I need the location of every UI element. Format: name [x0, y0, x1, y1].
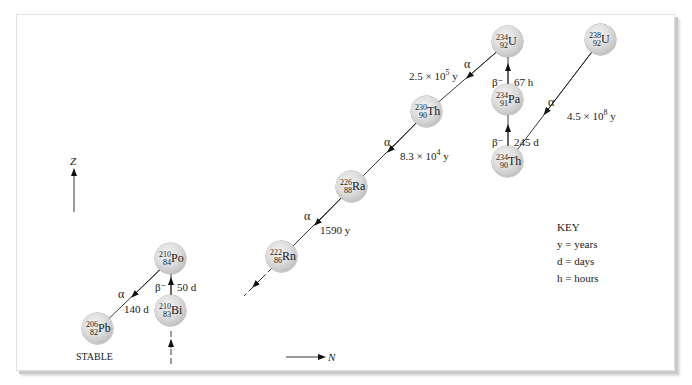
half-life-label: 67 h [514, 76, 533, 88]
half-life-label: 2.5 × 105 y [409, 70, 458, 82]
nuclide-th230: 23090Th [411, 96, 442, 127]
nuclide-po210: 21084Po [155, 243, 186, 274]
half-life-unit: y [607, 110, 615, 122]
half-life-base: 2.5 × 10 [409, 70, 445, 82]
half-life-label: 140 d [124, 303, 149, 315]
element-symbol: Rn [282, 250, 296, 262]
nuclide-pb206: 20682Pb [82, 313, 113, 344]
key-title: KEY [557, 219, 599, 236]
atomic-number: 90 [419, 112, 427, 120]
nuclide-bi210: 21083Bi [155, 295, 186, 326]
decay-type-label: α [464, 58, 470, 70]
atomic-number: 88 [344, 187, 352, 195]
element-symbol: Pa [508, 93, 520, 105]
decay-type-label: β⁻ [492, 76, 503, 88]
decay-type-label: α [548, 96, 554, 108]
half-life-label: 4.5 × 108 y [567, 110, 616, 122]
element-symbol: Th [508, 155, 521, 167]
half-life-label: 1590 y [320, 224, 350, 236]
stable-label: STABLE [76, 351, 113, 363]
decay-type-label: α [304, 210, 310, 222]
element-symbol: Th [427, 105, 440, 117]
atomic-number: 83 [163, 311, 171, 319]
element-symbol: U [601, 33, 610, 45]
nuclide-th234: 23490Th [492, 146, 523, 177]
key-item-years: y = years [557, 236, 599, 253]
z-axis-label: Z [70, 155, 76, 167]
element-symbol: U [508, 35, 517, 47]
element-symbol: Po [171, 252, 184, 264]
key-item-hours: h = hours [557, 270, 599, 287]
nuclide-pa234: 23491Pa [492, 84, 523, 115]
half-life-unit: y [449, 70, 457, 82]
atomic-number: 92 [500, 42, 508, 50]
atomic-number: 86 [274, 257, 282, 265]
key-legend: KEY y = years d = days h = hours [557, 219, 599, 287]
key-item-days: d = days [557, 253, 599, 270]
nuclide-u234: 23492U [492, 26, 523, 57]
half-life-exponent: 8 [603, 108, 607, 117]
decay-type-label: β⁻ [492, 136, 503, 148]
decay-type-label: β⁻ [155, 281, 166, 293]
atomic-number: 82 [90, 329, 98, 337]
half-life-label: 50 d [177, 281, 196, 293]
nuclide-u238: 23892U [585, 24, 616, 55]
n-axis-label: N [328, 351, 335, 363]
decay-type-label: α [118, 288, 124, 300]
atomic-number: 92 [593, 40, 601, 48]
atomic-number: 90 [500, 162, 508, 170]
element-symbol: Bi [171, 304, 182, 316]
nuclide-ra226: 22688Ra [336, 171, 367, 202]
half-life-label: 8.3 × 104 y [400, 150, 449, 162]
half-life-exponent: 5 [445, 68, 449, 77]
atomic-number: 91 [500, 100, 508, 108]
atomic-number: 84 [163, 259, 171, 267]
half-life-base: 8.3 × 10 [400, 150, 436, 162]
element-symbol: Ra [352, 180, 365, 192]
half-life-unit: y [440, 150, 448, 162]
nuclide-rn222: 22286Rn [266, 241, 297, 272]
half-life-label: 245 d [514, 136, 539, 148]
half-life-exponent: 4 [436, 148, 440, 157]
half-life-base: 4.5 × 10 [567, 110, 603, 122]
element-symbol: Pb [98, 322, 111, 334]
decay-type-label: α [384, 136, 390, 148]
